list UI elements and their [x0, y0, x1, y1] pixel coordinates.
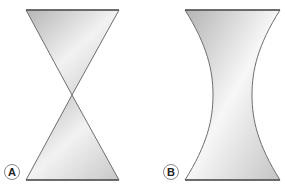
- label-b-badge: B: [164, 165, 179, 180]
- upper-cone: [26, 10, 119, 95]
- label-a: A: [8, 166, 16, 178]
- label-a-badge: A: [5, 165, 20, 180]
- lower-cone: [26, 95, 119, 180]
- panel-b: B: [164, 10, 281, 180]
- hyperboloid-surface: [185, 10, 280, 180]
- diagram-canvas: A B: [0, 0, 285, 189]
- panel-a: A: [5, 10, 120, 180]
- label-b: B: [167, 166, 175, 178]
